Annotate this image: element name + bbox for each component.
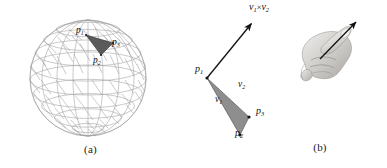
right-hand-illustration (301, 22, 356, 81)
label-p1-a: p1 (76, 26, 84, 36)
caption-b: (b) (290, 141, 350, 153)
label-p2-b: p2 (235, 128, 243, 139)
label-cross-product: v1×v2 (249, 2, 269, 13)
panel-b: v1×v2 p1 v1 v2 p3 p2 (b) (193, 0, 387, 168)
caption-a: (a) (0, 143, 187, 155)
normal-vector-arrow (207, 24, 252, 79)
vertex-p3-dot (247, 115, 250, 118)
label-p2-a: p2 (93, 56, 101, 66)
label-p3-a: p3 (112, 38, 120, 48)
figure-root: p1 p3 p2 (a) (0, 0, 387, 168)
label-p3-b: p3 (256, 106, 264, 117)
label-v2: v2 (238, 80, 245, 90)
label-v1: v1 (215, 95, 222, 105)
vertex-p1-dot (205, 76, 208, 79)
label-p1-b: p1 (195, 64, 203, 75)
panel-a: p1 p3 p2 (a) (0, 0, 193, 168)
